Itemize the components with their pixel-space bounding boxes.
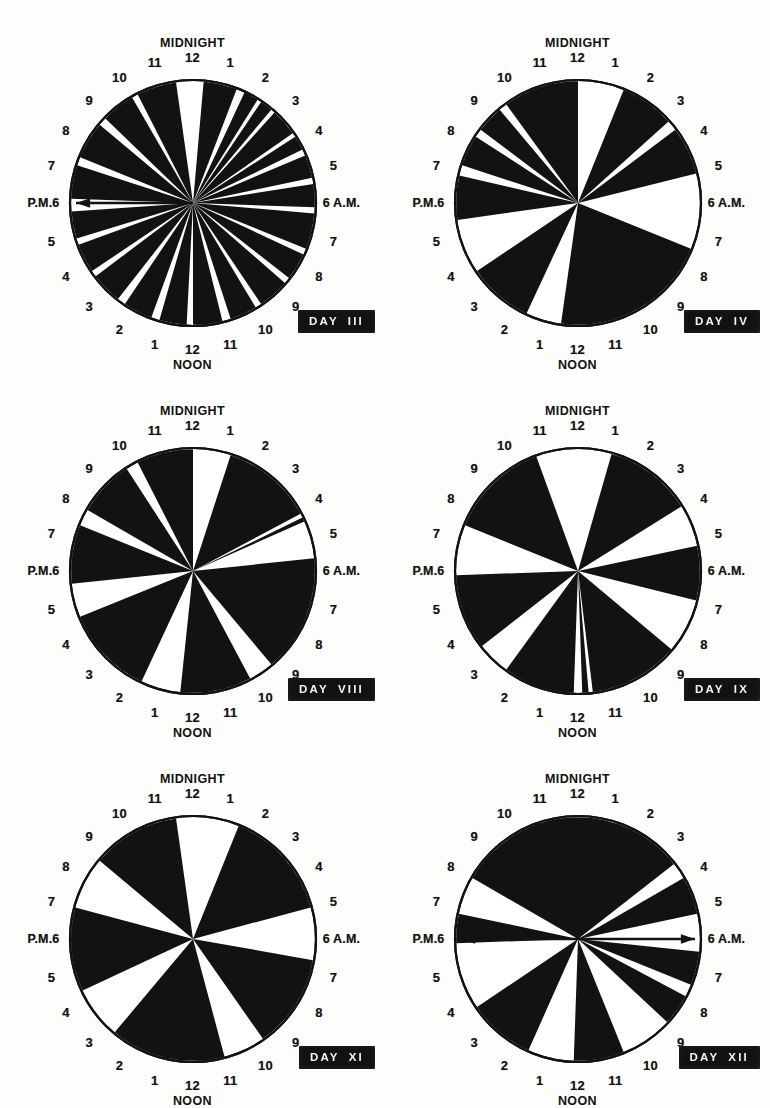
- hour-label-30: 2: [262, 70, 269, 83]
- hour-label-240: 4: [447, 270, 454, 283]
- midnight-caption: MIDNIGHT: [160, 404, 225, 418]
- dial-panel: 12123456 A.M.78910111212345P.M.67891011M…: [385, 736, 770, 1104]
- hour-label-15: 1: [227, 55, 234, 68]
- hour-label-105: 7: [715, 234, 722, 247]
- hour-label-285: 7: [433, 159, 440, 172]
- hour-label-345: 11: [148, 423, 162, 436]
- hour-label-45: 3: [292, 829, 299, 842]
- hour-label-30: 2: [262, 806, 269, 819]
- hour-label-105: 7: [330, 970, 337, 983]
- hour-label-180: 12: [185, 1079, 200, 1092]
- hour-label-345: 11: [148, 791, 162, 804]
- hour-label-270: P.M.6: [412, 565, 444, 578]
- hour-label-120: 8: [315, 638, 322, 651]
- hour-label-210: 2: [116, 323, 123, 336]
- hour-label-120: 8: [315, 1006, 322, 1019]
- day-word: DAY: [309, 315, 339, 327]
- midnight-caption: MIDNIGHT: [545, 36, 610, 50]
- hour-label-105: 7: [330, 602, 337, 615]
- day-plate: DAYIII: [298, 310, 375, 333]
- hour-label-285: 7: [48, 895, 55, 908]
- hour-label-30: 2: [647, 438, 654, 451]
- hour-label-255: 5: [48, 602, 55, 615]
- hour-label-120: 8: [700, 270, 707, 283]
- midnight-caption: MIDNIGHT: [545, 404, 610, 418]
- hour-label-300: 8: [62, 492, 69, 505]
- hour-label-105: 7: [330, 234, 337, 247]
- hour-label-255: 5: [48, 234, 55, 247]
- day-number: III: [348, 315, 364, 327]
- hour-label-165: 11: [223, 706, 237, 719]
- hour-label-60: 4: [700, 860, 707, 873]
- hour-label-270: P.M.6: [27, 197, 59, 210]
- hour-label-270: P.M.6: [412, 197, 444, 210]
- hour-label-0: 12: [185, 51, 200, 64]
- hour-label-75: 5: [330, 895, 337, 908]
- hour-label-120: 8: [700, 638, 707, 651]
- hour-label-330: 10: [497, 70, 512, 83]
- day-word: DAY: [695, 683, 725, 695]
- day-number: IV: [734, 315, 749, 327]
- hour-label-240: 4: [447, 638, 454, 651]
- hour-label-150: 10: [258, 1059, 273, 1072]
- day-word: DAY: [299, 683, 329, 695]
- hour-label-180: 12: [570, 343, 585, 356]
- day-word: DAY: [310, 1051, 340, 1063]
- hour-label-75: 5: [715, 895, 722, 908]
- black-sectors: [71, 449, 315, 693]
- hour-label-255: 5: [433, 602, 440, 615]
- hour-label-60: 4: [700, 492, 707, 505]
- hour-label-300: 8: [447, 124, 454, 137]
- hour-label-45: 3: [677, 93, 684, 106]
- hour-label-240: 4: [62, 638, 69, 651]
- hour-label-180: 12: [185, 343, 200, 356]
- day-plate: DAYIX: [684, 678, 760, 701]
- hour-label-195: 1: [151, 1074, 158, 1087]
- hour-label-60: 4: [315, 124, 322, 137]
- hour-label-0: 12: [185, 419, 200, 432]
- hour-label-105: 7: [715, 602, 722, 615]
- hour-label-45: 3: [677, 461, 684, 474]
- hour-label-165: 11: [223, 1074, 237, 1087]
- hour-label-90: 6 A.M.: [323, 565, 361, 578]
- hour-label-225: 3: [471, 668, 478, 681]
- day-plate: DAYXI: [299, 1046, 375, 1069]
- hour-label-345: 11: [533, 791, 547, 804]
- hour-label-150: 10: [643, 691, 658, 704]
- hour-label-345: 11: [533, 423, 547, 436]
- hour-label-60: 4: [315, 492, 322, 505]
- hour-label-150: 10: [258, 691, 273, 704]
- hour-label-315: 9: [86, 829, 93, 842]
- hour-label-90: 6 A.M.: [323, 933, 361, 946]
- hour-label-60: 4: [315, 860, 322, 873]
- hour-label-150: 10: [643, 323, 658, 336]
- hour-label-15: 1: [227, 423, 234, 436]
- midnight-caption: MIDNIGHT: [545, 772, 610, 786]
- day-word: DAY: [695, 315, 725, 327]
- noon-caption: NOON: [558, 1094, 597, 1108]
- hour-label-270: P.M.6: [27, 933, 59, 946]
- hour-label-120: 8: [315, 270, 322, 283]
- hour-label-330: 10: [112, 438, 127, 451]
- hour-label-315: 9: [471, 461, 478, 474]
- hour-label-255: 5: [433, 234, 440, 247]
- hour-label-210: 2: [116, 1059, 123, 1072]
- hour-label-0: 12: [570, 51, 585, 64]
- hour-label-90: 6 A.M.: [708, 933, 746, 946]
- hour-label-330: 10: [112, 806, 127, 819]
- hour-label-60: 4: [700, 124, 707, 137]
- hour-label-0: 12: [570, 787, 585, 800]
- hour-label-180: 12: [570, 711, 585, 724]
- hour-label-285: 7: [433, 527, 440, 540]
- day-number: XII: [728, 1051, 749, 1063]
- hour-label-240: 4: [62, 1006, 69, 1019]
- midnight-caption: MIDNIGHT: [160, 36, 225, 50]
- hour-label-240: 4: [447, 1006, 454, 1019]
- hour-label-30: 2: [647, 70, 654, 83]
- hour-label-45: 3: [677, 829, 684, 842]
- hour-label-315: 9: [86, 461, 93, 474]
- dial-panel: 12123456 A.M.78910111212345P.M.67891011M…: [0, 368, 385, 736]
- hour-label-345: 11: [148, 55, 162, 68]
- hour-label-225: 3: [471, 1036, 478, 1049]
- hour-label-330: 10: [112, 70, 127, 83]
